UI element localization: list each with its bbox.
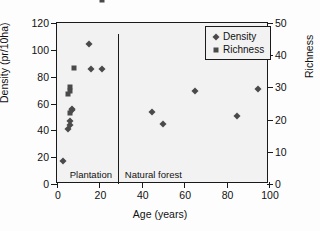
x-tick-20: 20 xyxy=(99,182,100,188)
scatter-chart-figure: Density (pr/10ha) Richness Age (years) 0… xyxy=(0,0,320,231)
y-tick-label-left-80: 80 xyxy=(37,71,49,83)
y-tick-left-60: 60 xyxy=(51,104,57,105)
richness-marker-icon xyxy=(211,44,222,55)
y-axis-label-right: Richness xyxy=(303,35,315,78)
x-tick-label-40: 40 xyxy=(137,189,149,201)
y-tick-label-right-40: 40 xyxy=(275,49,287,61)
data-point-density xyxy=(234,112,241,119)
panel-caption-1: Natural forest xyxy=(125,169,182,180)
y-tick-left-40: 40 xyxy=(51,130,57,131)
x-tick-label-60: 60 xyxy=(179,189,191,201)
legend-label-richness: Richness xyxy=(223,44,264,55)
legend-item-richness: Richness xyxy=(211,43,264,56)
data-point-density xyxy=(149,108,156,115)
panel-divider-line xyxy=(118,34,119,184)
y-tick-left-20: 20 xyxy=(51,157,57,158)
y-tick-label-left-20: 20 xyxy=(37,151,49,163)
x-tick-80: 80 xyxy=(227,182,228,188)
y-tick-right-50: 50 xyxy=(267,23,273,24)
x-tick-100: 100 xyxy=(269,182,270,188)
legend-label-density: Density xyxy=(223,31,256,42)
data-point-density xyxy=(159,120,166,127)
y-tick-label-right-20: 20 xyxy=(275,114,287,126)
data-point-richness xyxy=(71,66,76,71)
y-tick-left-80: 80 xyxy=(51,77,57,78)
density-marker-icon xyxy=(211,31,222,42)
data-point-density xyxy=(98,65,105,72)
data-point-richness xyxy=(67,111,72,116)
x-tick-label-100: 100 xyxy=(261,189,279,201)
y-tick-label-right-50: 50 xyxy=(275,17,287,29)
y-tick-label-left-120: 120 xyxy=(31,17,49,29)
y-tick-label-left-60: 60 xyxy=(37,98,49,110)
y-tick-right-20: 20 xyxy=(267,120,273,121)
data-point-density xyxy=(191,88,198,95)
y-tick-left-120: 120 xyxy=(51,23,57,24)
y-tick-label-right-10: 10 xyxy=(275,146,287,158)
data-point-density xyxy=(60,158,67,165)
chart-legend: Density Richness xyxy=(205,26,271,60)
y-tick-label-left-100: 100 xyxy=(31,44,49,56)
x-tick-label-0: 0 xyxy=(55,189,61,201)
y-axis-label-left: Density (pr/10ha) xyxy=(0,22,10,103)
legend-item-density: Density xyxy=(211,30,264,43)
y-tick-label-left-40: 40 xyxy=(37,124,49,136)
data-point-richness xyxy=(67,85,72,90)
y-tick-right-30: 30 xyxy=(267,87,273,88)
x-axis-label: Age (years) xyxy=(0,208,320,220)
y-tick-right-10: 10 xyxy=(267,152,273,153)
panel-caption-0: Plantation xyxy=(70,169,112,180)
data-point-density xyxy=(85,41,92,48)
x-tick-label-20: 20 xyxy=(95,189,107,201)
y-tick-left-100: 100 xyxy=(51,50,57,51)
data-point-richness xyxy=(99,0,104,3)
x-tick-40: 40 xyxy=(142,182,143,188)
x-tick-60: 60 xyxy=(184,182,185,188)
data-point-density xyxy=(255,85,262,92)
y-tick-right-0: 0 xyxy=(267,184,273,185)
data-point-density xyxy=(87,65,94,72)
y-tick-label-right-30: 30 xyxy=(275,81,287,93)
x-tick-label-80: 80 xyxy=(222,189,234,201)
x-tick-0: 0 xyxy=(57,182,58,188)
y-tick-label-left-0: 0 xyxy=(43,178,49,190)
